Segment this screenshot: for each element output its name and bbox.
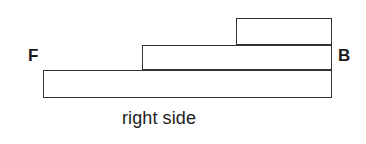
back-end-label: B	[338, 47, 350, 64]
figure-right-side-view: F B right side	[0, 0, 366, 144]
figure-caption-text: right side	[122, 108, 196, 128]
figure-caption: right side	[0, 107, 366, 129]
block-middle-tier	[142, 45, 332, 70]
front-end-label: F	[28, 47, 38, 64]
block-top-tier	[236, 18, 332, 45]
block-bottom-tier	[43, 70, 332, 98]
